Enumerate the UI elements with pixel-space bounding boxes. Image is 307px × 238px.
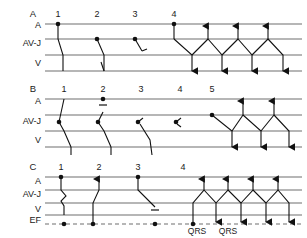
figure-canvas: A 1 2 3 4 A AV-J V [0, 0, 307, 238]
panel-b-beat-3: 3 [138, 84, 143, 94]
panel-b-row-label-a: A [35, 96, 41, 106]
panel-b-beat-2: 2 [100, 84, 105, 94]
panel-a-beat1-conduction [58, 24, 63, 71]
panel-c-row-label-ef: EF [29, 215, 41, 225]
panel-b-beat-5: 5 [209, 84, 214, 94]
panel-c-retrograde-2 [216, 179, 228, 203]
panel-a-row-label-a: A [35, 20, 41, 30]
panel-a: A 1 2 3 4 A AV-J V [23, 8, 302, 71]
panel-c-beat4-retrograde-1 [193, 179, 204, 224]
panel-a-row-label-avj: AV-J [23, 38, 41, 48]
panel-c-row-label-v: V [35, 204, 41, 214]
panel-c-antegrade-1 [204, 190, 216, 222]
panel-b-beat2-atrial-dot [101, 97, 106, 102]
panel-a-beat3-block-hook [142, 49, 147, 51]
panel-c-antegrade-2 [228, 190, 241, 222]
panel-c-retrograde-4 [266, 179, 278, 203]
panel-b-beat4-ante-concealed [177, 124, 181, 127]
panel-c-beat-3: 3 [135, 162, 140, 172]
panel-a-beat-2: 2 [94, 9, 99, 19]
panel-b-beat-1: 1 [61, 84, 66, 94]
panel-b-beat3-antegrade [140, 124, 152, 155]
panel-a-echo-1-retro [192, 39, 208, 55]
panel-a-echo-2-retro [222, 39, 238, 55]
panel-b-beat-4: 4 [177, 84, 182, 94]
panel-c-beat3-ef-dot [153, 222, 158, 227]
panel-a-beat-1: 1 [55, 9, 60, 19]
panel-c-beat2-retrograde [93, 179, 99, 224]
panel-c-qrs-label-2: QRS [219, 226, 238, 236]
panel-a-beat3-conduction [135, 39, 142, 51]
ladder-diagram-svg: A 1 2 3 4 A AV-J V [0, 0, 307, 238]
panel-c-letter: C [30, 161, 37, 172]
panel-b-row-label-avj: AV-J [23, 116, 41, 126]
panel-b-beat2-retrograde [98, 112, 103, 122]
panel-a-echo-3-retro [252, 39, 268, 55]
panel-a-letter: A [30, 8, 37, 19]
panel-c-beat-4: 4 [180, 162, 185, 172]
panel-c: C 1 2 3 4 A AV-J V EF [23, 161, 302, 236]
panel-c-row-label-avj: AV-J [23, 189, 41, 199]
panel-b-beat1-antegrade [59, 122, 71, 147]
panel-c-antegrade-4 [278, 190, 289, 222]
panel-c-qrs-label-1: QRS [188, 226, 207, 236]
panel-a-row-label-v: V [35, 58, 41, 68]
panel-b: B 1 2 3 4 5 A AV-J V [23, 83, 302, 155]
panel-b-beat1-retrograde [59, 99, 64, 122]
panel-c-beat1-conduction [61, 177, 66, 215]
panel-b-echo-1-retro [232, 115, 243, 131]
panel-b-beat2-antegrade [98, 122, 111, 147]
panel-b-letter: B [30, 83, 36, 94]
panel-b-row-label-v: V [35, 135, 41, 145]
panel-a-beat-3: 3 [132, 9, 137, 19]
panel-c-antegrade-3 [253, 190, 266, 222]
panel-c-beat-1: 1 [58, 162, 63, 172]
panel-c-beat-2: 2 [96, 162, 101, 172]
panel-c-retrograde-3 [241, 179, 253, 203]
panel-a-beat-4: 4 [171, 9, 176, 19]
panel-b-echo-2-retro [261, 115, 274, 131]
panel-c-row-label-a: A [35, 176, 41, 186]
panel-c-beat1-ef-dot [62, 222, 67, 227]
